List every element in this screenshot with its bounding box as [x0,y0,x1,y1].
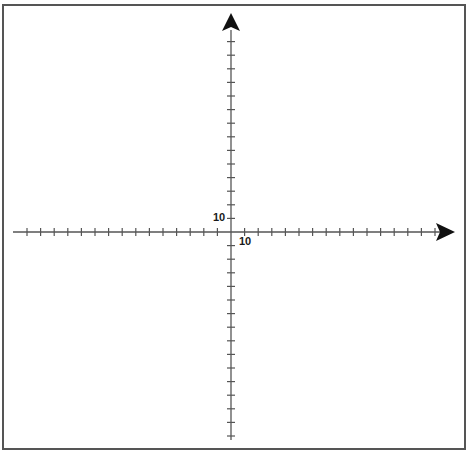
axes-group [13,30,440,440]
coordinate-plane: 10 10 [0,0,468,456]
y-axis-arrow-icon [222,13,240,31]
x-axis-label-10: 10 [239,235,251,247]
y-axis-label-10: 10 [213,211,225,223]
